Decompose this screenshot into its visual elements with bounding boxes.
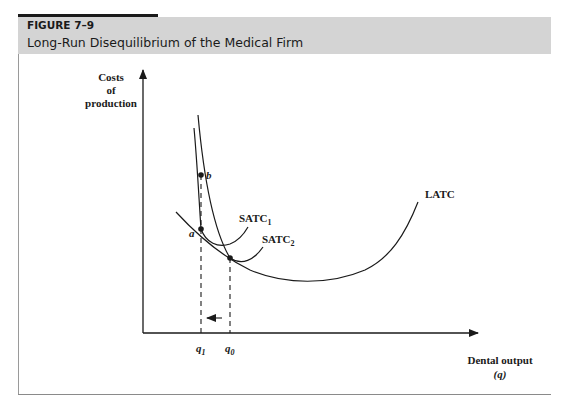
latc-curve: [176, 202, 418, 281]
y-axis-label-line-3: production: [85, 97, 137, 109]
y-axis-label-line-1: Costs: [98, 71, 124, 83]
y-axis-label-line-2: of: [106, 84, 116, 96]
x-axis-variable: (q): [494, 368, 507, 381]
point-a-label: a: [189, 227, 195, 239]
cost-diagram: Costs of production Dental output (q) b …: [0, 0, 561, 411]
q0-label: q0: [225, 342, 235, 357]
point-tangency-q0: [227, 255, 233, 261]
satc1-label: SATC1: [239, 212, 272, 227]
x-axis-label: Dental output: [467, 354, 532, 366]
latc-label: LATC: [425, 188, 455, 200]
point-b-label: b: [206, 169, 212, 181]
point-a: [198, 226, 204, 232]
q1-label: q1: [196, 342, 206, 357]
satc2-label: SATC2: [262, 233, 295, 248]
point-b: [198, 172, 204, 178]
